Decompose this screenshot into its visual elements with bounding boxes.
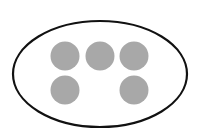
set-boundary-ellipse: [13, 21, 187, 127]
set-element-dot: [120, 76, 149, 105]
set-element-dot: [51, 42, 80, 71]
set-element-dot: [120, 42, 149, 71]
set-element-dot: [86, 42, 115, 71]
set-element-dot: [51, 76, 80, 105]
set-diagram: [0, 0, 200, 138]
